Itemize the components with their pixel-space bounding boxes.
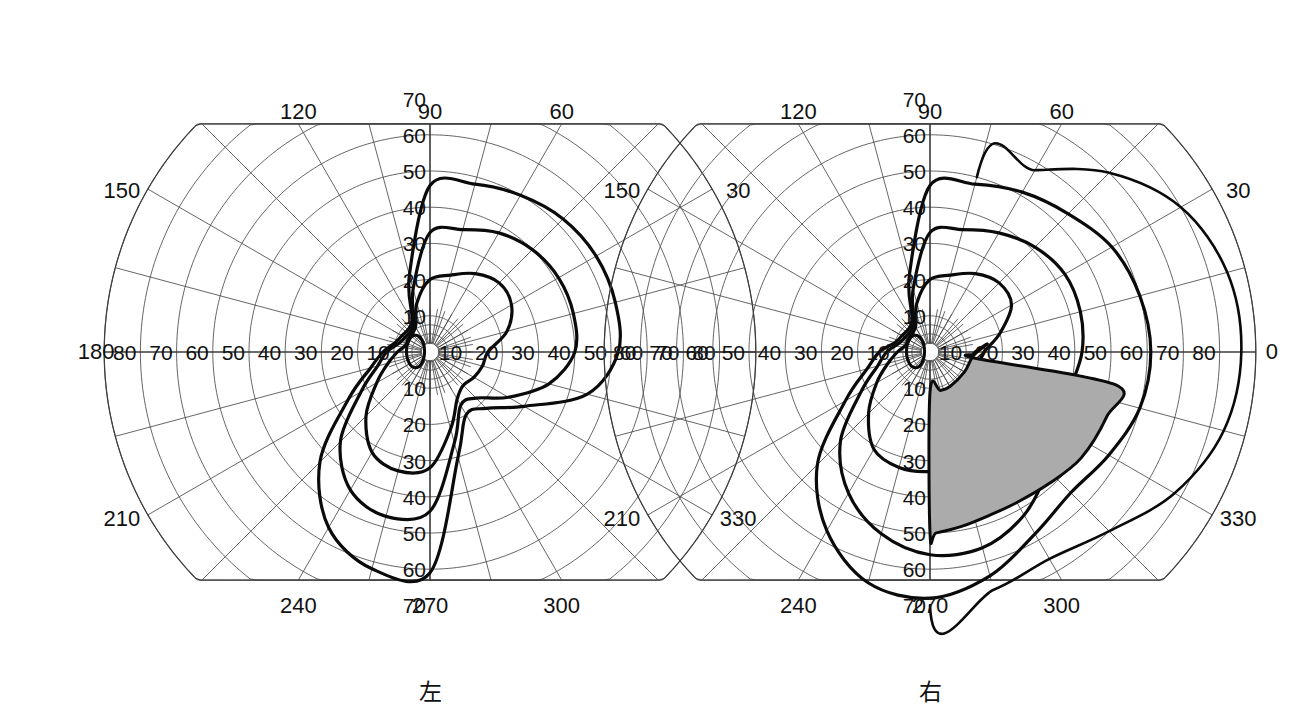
eye-label-left-eye: 左 bbox=[419, 679, 442, 705]
radial-tick-down-40: 40 bbox=[903, 486, 926, 509]
radial-tick-left-60: 60 bbox=[685, 341, 708, 364]
radial-tick-up-60: 60 bbox=[903, 124, 926, 147]
radial-tick-down-10: 10 bbox=[903, 377, 926, 400]
radial-tick-left-30: 30 bbox=[794, 341, 817, 364]
radial-tick-down-20: 20 bbox=[903, 413, 926, 436]
radial-tick-right-10: 10 bbox=[439, 341, 462, 364]
meridian-label-120: 120 bbox=[780, 99, 817, 124]
meridian-label-240: 240 bbox=[780, 593, 817, 618]
radial-tick-up-10: 10 bbox=[903, 305, 926, 328]
meridian-label-330: 330 bbox=[720, 506, 757, 531]
radial-tick-right-60: 60 bbox=[1120, 341, 1143, 364]
radial-tick-left-20: 20 bbox=[830, 341, 853, 364]
radial-tick-left-40: 40 bbox=[758, 341, 781, 364]
radial-tick-up-40: 40 bbox=[903, 196, 926, 219]
radial-tick-right-70: 70 bbox=[1156, 341, 1179, 364]
meridian-label-210: 210 bbox=[603, 506, 640, 531]
perimetry-svg-canvas: 1209060150302103302402703001807060504030… bbox=[0, 0, 1315, 728]
radial-tick-down-70: 70 bbox=[403, 594, 426, 617]
meridian-label-210: 210 bbox=[103, 506, 140, 531]
radial-tick-right-20: 20 bbox=[975, 341, 998, 364]
radial-tick-left-80: 80 bbox=[613, 341, 636, 364]
radial-tick-down-30: 30 bbox=[903, 450, 926, 473]
meridian-label-330: 330 bbox=[1220, 506, 1257, 531]
radial-tick-down-70: 70 bbox=[903, 594, 926, 617]
meridian-label-30: 30 bbox=[726, 178, 750, 203]
radial-tick-down-50: 50 bbox=[903, 522, 926, 545]
radial-tick-up-60: 60 bbox=[403, 124, 426, 147]
radial-tick-up-10: 10 bbox=[403, 305, 426, 328]
radial-tick-left-80: 80 bbox=[113, 341, 136, 364]
radial-tick-right-40: 40 bbox=[547, 341, 570, 364]
meridian-label-240: 240 bbox=[280, 593, 317, 618]
radial-tick-right-50: 50 bbox=[1084, 341, 1107, 364]
radial-tick-left-10: 10 bbox=[866, 341, 889, 364]
figure-background bbox=[0, 0, 1315, 728]
radial-tick-down-60: 60 bbox=[403, 558, 426, 581]
meridian-label-120: 120 bbox=[280, 99, 317, 124]
page-caption-strip bbox=[0, 718, 1315, 728]
radial-tick-down-10: 10 bbox=[403, 377, 426, 400]
radial-tick-right-30: 30 bbox=[1011, 341, 1034, 364]
radial-tick-up-40: 40 bbox=[403, 196, 426, 219]
radial-tick-down-60: 60 bbox=[903, 558, 926, 581]
radial-tick-up-30: 30 bbox=[403, 232, 426, 255]
radial-tick-right-50: 50 bbox=[584, 341, 607, 364]
perimetry-chart-figure: 1209060150302103302402703001807060504030… bbox=[0, 0, 1315, 728]
radial-tick-right-30: 30 bbox=[511, 341, 534, 364]
radial-tick-up-70: 70 bbox=[903, 88, 926, 111]
eye-label-right-eye: 右 bbox=[919, 679, 942, 705]
meridian-label-60: 60 bbox=[549, 99, 573, 124]
radial-tick-right-40: 40 bbox=[1047, 341, 1070, 364]
radial-tick-left-50: 50 bbox=[222, 341, 245, 364]
radial-tick-down-20: 20 bbox=[403, 413, 426, 436]
radial-tick-up-70: 70 bbox=[403, 88, 426, 111]
radial-tick-down-50: 50 bbox=[403, 522, 426, 545]
radial-tick-up-30: 30 bbox=[903, 232, 926, 255]
radial-tick-left-70: 70 bbox=[649, 341, 672, 364]
meridian-label-30: 30 bbox=[1226, 178, 1250, 203]
radial-tick-right-10: 10 bbox=[939, 341, 962, 364]
meridian-label-300: 300 bbox=[1043, 593, 1080, 618]
radial-tick-down-30: 30 bbox=[403, 450, 426, 473]
radial-tick-left-70: 70 bbox=[149, 341, 172, 364]
radial-tick-up-50: 50 bbox=[403, 160, 426, 183]
radial-tick-up-20: 20 bbox=[403, 269, 426, 292]
meridian-label-150: 150 bbox=[103, 178, 140, 203]
meridian-label-60: 60 bbox=[1049, 99, 1073, 124]
radial-tick-left-10: 10 bbox=[366, 341, 389, 364]
meridian-label-300: 300 bbox=[543, 593, 580, 618]
radial-tick-up-20: 20 bbox=[903, 269, 926, 292]
radial-tick-right-20: 20 bbox=[475, 341, 498, 364]
meridian-label-180: 180 bbox=[78, 339, 115, 364]
radial-tick-right-80: 80 bbox=[1192, 341, 1215, 364]
radial-tick-left-60: 60 bbox=[185, 341, 208, 364]
radial-tick-down-40: 40 bbox=[403, 486, 426, 509]
radial-tick-left-50: 50 bbox=[722, 341, 745, 364]
radial-tick-left-20: 20 bbox=[330, 341, 353, 364]
meridian-label-0: 0 bbox=[1266, 339, 1278, 364]
meridian-label-150: 150 bbox=[603, 178, 640, 203]
radial-tick-left-40: 40 bbox=[258, 341, 281, 364]
radial-tick-up-50: 50 bbox=[903, 160, 926, 183]
radial-tick-left-30: 30 bbox=[294, 341, 317, 364]
